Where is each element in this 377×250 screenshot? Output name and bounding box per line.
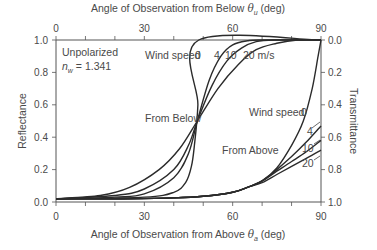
right-tick-label: 1.0 <box>328 197 342 208</box>
wind-speed-right-4: 4 <box>307 125 313 137</box>
bottom-tick-label: 0 <box>53 211 59 222</box>
top-tick-label: 0 <box>53 23 59 34</box>
polarization-label: Unpolarized <box>62 46 118 58</box>
wind-speed-right-10: 10 <box>302 142 314 154</box>
wind-speed-top-label: Wind speed <box>145 49 201 61</box>
wind-speed-right-20: 20 <box>302 157 314 169</box>
top-tick-label: 60 <box>227 23 239 34</box>
right-tick-label: 0.8 <box>328 164 342 175</box>
bottom-axis-title: Angle of Observation from Above θa (deg) <box>91 228 286 242</box>
reflectance-chart: 030609003060900.00.20.40.60.81.00.00.20.… <box>0 0 377 250</box>
left-tick-label: 0.8 <box>34 67 48 78</box>
from-below-label: From Below <box>145 112 201 124</box>
right-axis-title: Transmittance <box>348 88 360 154</box>
wind-speed-top-10: 10 <box>225 49 237 61</box>
bottom-tick-label: 60 <box>227 211 239 222</box>
right-tick-label: 0.4 <box>328 99 342 110</box>
left-tick-label: 0.4 <box>34 132 48 143</box>
wind-speed-top-4: 4 <box>214 49 220 61</box>
right-tick-label: 0.6 <box>328 132 342 143</box>
left-tick-label: 0.0 <box>34 197 48 208</box>
left-tick-label: 1.0 <box>34 35 48 46</box>
left-axis-title: Reflectance <box>16 93 28 149</box>
wind-speed-top-0: 0 <box>195 49 201 61</box>
from-above-label: From Above <box>222 144 279 156</box>
left-tick-label: 0.2 <box>34 164 48 175</box>
curve-above-6 <box>56 140 321 198</box>
wind-speed-right-0: 0 <box>301 106 307 118</box>
right-tick-label: 0.0 <box>328 35 342 46</box>
wind-speed-right-label: Wind speed <box>249 106 305 118</box>
top-tick-label: 30 <box>139 23 151 34</box>
right-tick-label: 0.2 <box>328 67 342 78</box>
chart-labels: Angle of Observation from Below θu (deg)… <box>16 2 360 242</box>
wind-speed-top-20: 20 m/s <box>243 49 275 61</box>
left-tick-label: 0.6 <box>34 99 48 110</box>
top-tick-label: 90 <box>315 23 327 34</box>
refractive-index-label: nw = 1.341 <box>62 60 111 74</box>
bottom-tick-label: 30 <box>139 211 151 222</box>
bottom-tick-label: 90 <box>315 211 327 222</box>
top-axis-title: Angle of Observation from Below θu (deg) <box>91 2 285 16</box>
